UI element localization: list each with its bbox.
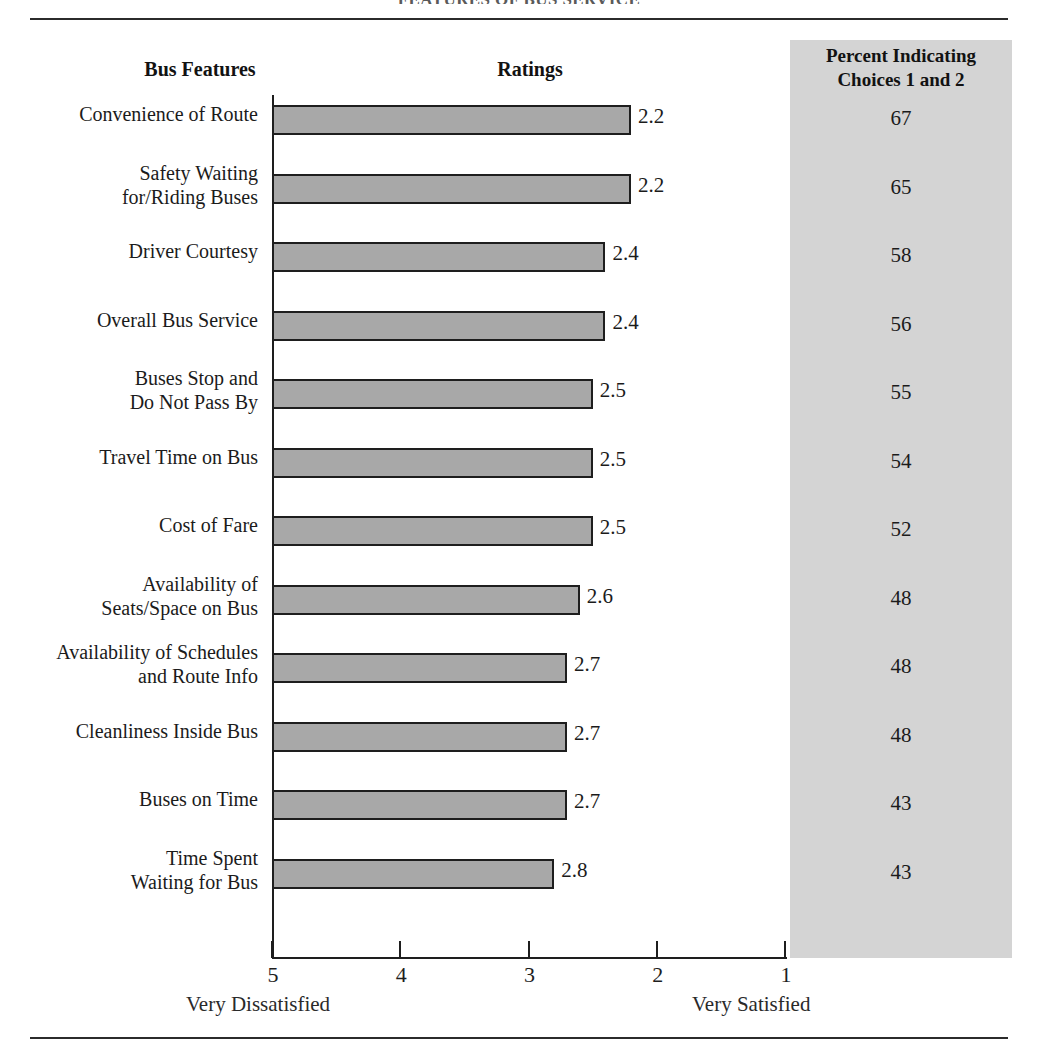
percent-value: 43 — [790, 860, 1012, 885]
x-axis-tick-label: 1 — [766, 962, 806, 988]
row-feature-label: Cleanliness Inside Bus — [8, 719, 258, 743]
chart-row: Safety Waitingfor/Riding Buses2.265 — [0, 165, 1038, 233]
x-axis-tick-mark — [656, 941, 658, 958]
row-feature-label: Cost of Fare — [8, 513, 258, 537]
rating-bar — [272, 174, 631, 204]
percent-header-line-2: Choices 1 and 2 — [792, 68, 1010, 92]
row-feature-label: Travel Time on Bus — [8, 445, 258, 469]
chart-row: Buses on Time2.743 — [0, 781, 1038, 849]
row-feature-label: Safety Waitingfor/Riding Buses — [8, 161, 258, 210]
row-feature-label-line-2: for/Riding Buses — [8, 185, 258, 209]
row-feature-label: Availability of Schedulesand Route Info — [8, 640, 258, 689]
chart-row: Availability ofSeats/Space on Bus2.648 — [0, 576, 1038, 644]
chart-row: Driver Courtesy2.458 — [0, 233, 1038, 301]
column-header-bus-features: Bus Features — [70, 58, 330, 81]
row-feature-label-line-2: Waiting for Bus — [8, 870, 258, 894]
row-feature-label: Buses Stop andDo Not Pass By — [8, 366, 258, 415]
rating-value-label: 2.7 — [574, 721, 600, 746]
bottom-divider-rule — [30, 1037, 1008, 1039]
row-feature-label: Overall Bus Service — [8, 308, 258, 332]
rating-bar — [272, 516, 593, 546]
row-feature-label-line-1: Safety Waiting — [8, 161, 258, 185]
rating-value-label: 2.6 — [587, 584, 613, 609]
row-feature-label-line-1: Availability of — [8, 572, 258, 596]
percent-value: 48 — [790, 586, 1012, 611]
percent-value: 58 — [790, 243, 1012, 268]
row-feature-label-line-1: Driver Courtesy — [8, 239, 258, 263]
rating-value-label: 2.7 — [574, 652, 600, 677]
rating-value-label: 2.4 — [612, 241, 638, 266]
x-axis-tick-mark — [528, 941, 530, 958]
chart-row: Travel Time on Bus2.554 — [0, 439, 1038, 507]
row-feature-label-line-1: Buses on Time — [8, 787, 258, 811]
rating-bar — [272, 311, 605, 341]
axis-anchor-very-dissatisfied: Very Dissatisfied — [186, 992, 330, 1017]
chart-row: Time SpentWaiting for Bus2.843 — [0, 850, 1038, 918]
top-divider-rule — [30, 18, 1008, 20]
chart-row: Buses Stop andDo Not Pass By2.555 — [0, 370, 1038, 438]
percent-value: 55 — [790, 380, 1012, 405]
percent-value: 67 — [790, 106, 1012, 131]
axis-anchor-very-satisfied: Very Satisfied — [692, 992, 810, 1017]
row-feature-label-line-2: Seats/Space on Bus — [8, 596, 258, 620]
percent-value: 54 — [790, 449, 1012, 474]
row-feature-label: Driver Courtesy — [8, 239, 258, 263]
percent-value: 52 — [790, 517, 1012, 542]
percent-value: 56 — [790, 312, 1012, 337]
rating-bar — [272, 722, 567, 752]
figure-title: FEATURES OF BUS SERVICE — [0, 0, 1038, 4]
rating-value-label: 2.4 — [612, 310, 638, 335]
x-axis-tick-mark — [399, 941, 401, 958]
row-feature-label-line-1: Overall Bus Service — [8, 308, 258, 332]
percent-value: 43 — [790, 791, 1012, 816]
x-axis-tick-label: 5 — [253, 962, 293, 988]
row-feature-label-line-1: Cost of Fare — [8, 513, 258, 537]
column-header-percent: Percent Indicating Choices 1 and 2 — [792, 44, 1010, 93]
row-feature-label-line-1: Time Spent — [8, 846, 258, 870]
row-feature-label-line-1: Travel Time on Bus — [8, 445, 258, 469]
row-feature-label: Convenience of Route — [8, 102, 258, 126]
percent-value: 48 — [790, 654, 1012, 679]
row-feature-label-line-1: Convenience of Route — [8, 102, 258, 126]
x-axis-tick-label: 2 — [638, 962, 678, 988]
rating-bar — [272, 379, 593, 409]
x-axis-tick-label: 3 — [510, 962, 550, 988]
rating-value-label: 2.8 — [561, 858, 587, 883]
rating-bar — [272, 653, 567, 683]
x-axis-line — [272, 957, 787, 959]
row-feature-label-line-1: Availability of Schedules — [8, 640, 258, 664]
x-axis-tick-label: 4 — [381, 962, 421, 988]
chart-row: Cleanliness Inside Bus2.748 — [0, 713, 1038, 781]
percent-header-line-1: Percent Indicating — [792, 44, 1010, 68]
rating-bar — [272, 790, 567, 820]
x-axis-tick-mark — [271, 941, 273, 958]
chart-row: Availability of Schedulesand Route Info2… — [0, 644, 1038, 712]
rating-bar — [272, 448, 593, 478]
row-feature-label: Availability ofSeats/Space on Bus — [8, 572, 258, 621]
row-feature-label-line-2: Do Not Pass By — [8, 390, 258, 414]
x-axis-tick-mark — [784, 941, 786, 958]
percent-value: 48 — [790, 723, 1012, 748]
column-header-ratings: Ratings — [400, 58, 660, 81]
row-feature-label-line-1: Cleanliness Inside Bus — [8, 719, 258, 743]
chart-row: Overall Bus Service2.456 — [0, 302, 1038, 370]
row-feature-label: Time SpentWaiting for Bus — [8, 846, 258, 895]
rating-bar — [272, 585, 580, 615]
row-feature-label-line-1: Buses Stop and — [8, 366, 258, 390]
row-feature-label-line-2: and Route Info — [8, 664, 258, 688]
percent-value: 65 — [790, 175, 1012, 200]
rating-value-label: 2.2 — [638, 104, 664, 129]
rating-value-label: 2.7 — [574, 789, 600, 814]
rating-value-label: 2.2 — [638, 173, 664, 198]
rating-bar — [272, 859, 554, 889]
rating-value-label: 2.5 — [600, 515, 626, 540]
rating-bar — [272, 242, 605, 272]
rating-value-label: 2.5 — [600, 447, 626, 472]
chart-row: Convenience of Route2.267 — [0, 96, 1038, 164]
chart-row: Cost of Fare2.552 — [0, 507, 1038, 575]
row-feature-label: Buses on Time — [8, 787, 258, 811]
rating-bar — [272, 105, 631, 135]
rating-value-label: 2.5 — [600, 378, 626, 403]
